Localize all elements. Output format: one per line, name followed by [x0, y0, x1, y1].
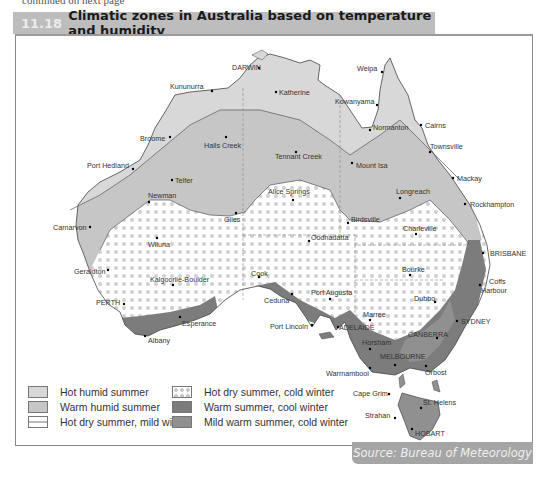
label-townsville: Townsville — [430, 142, 463, 151]
label-sydney: SYDNEY — [461, 317, 491, 326]
label-kalgoorlie: Kalgoorlie-Boulder — [150, 275, 210, 284]
legend-item-warm-humid: Warm humid summer — [28, 401, 160, 413]
label-esperance: Esperance — [182, 319, 216, 328]
label-katherine: Katherine — [279, 88, 310, 97]
label-mackay: Mackay — [457, 174, 482, 183]
label-ceduna: Ceduna — [264, 296, 289, 305]
label-birdsville: Birdsville — [351, 215, 380, 224]
label-halls-creek: Halls Creek — [204, 141, 242, 150]
label-port-hedland: Port Hedland — [87, 161, 129, 170]
swatch-hot-dry-cold — [172, 386, 192, 398]
label-charleville: Charleville — [403, 224, 437, 233]
swatch-hot-dry-mild — [28, 416, 48, 428]
label-hobart: HOBART — [415, 429, 445, 438]
label-telfer: Telfer — [175, 176, 193, 185]
label-weipa: Weipa — [357, 64, 377, 73]
label-orbost: Orbost — [425, 368, 447, 377]
swatch-warm-humid — [28, 401, 48, 413]
label-brisbane: BRISBANE — [490, 249, 527, 258]
label-cairns: Cairns — [425, 121, 446, 130]
label-cape-grim: Cape Grim — [353, 389, 388, 398]
label-newman: Newman — [148, 191, 176, 200]
label-bourke: Bourke — [402, 265, 425, 274]
label-alice-springs: Alice Springs — [268, 187, 310, 196]
label-st-helens: St. Helens — [423, 398, 457, 407]
swatch-mild-cold — [172, 416, 192, 428]
label-port-lincoln: Port Lincoln — [270, 322, 308, 331]
label-horsham: Horsham — [362, 338, 391, 347]
label-cook: Cook — [251, 269, 268, 278]
label-strahan: Strahan — [365, 411, 390, 420]
label-dubbo: Dubbo — [414, 294, 435, 303]
legend-item-hot-humid: Hot humid summer — [28, 386, 149, 398]
label-darwin: DARWIN — [232, 63, 261, 72]
legend-item-hot-dry-mild: Hot dry summer, mild winter — [28, 416, 190, 428]
label-melbourne: MELBOURNE — [380, 352, 426, 361]
label-albany: Albany — [148, 336, 170, 345]
label-warrnambool: Warrnambool — [326, 369, 369, 378]
label-mount-isa: Mount Isa — [356, 161, 388, 170]
label-longreach: Longreach — [396, 187, 430, 196]
label-broome: Broome — [140, 134, 165, 143]
label-wiluna: Wiluna — [148, 240, 170, 249]
source-badge: Source: Bureau of Meteorology — [352, 442, 533, 464]
label-port-augusta: Port Augusta — [311, 288, 352, 297]
label-kununurra: Kununurra — [170, 82, 204, 91]
label-geraldton: Geraldton — [74, 267, 106, 276]
label-harbour: Harbour — [481, 286, 508, 295]
legend-item-mild-cold: Mild warm summer, cold winter — [172, 416, 348, 428]
label-adelaide: ADELAIDE — [339, 323, 375, 332]
label-rockhampton: Rockhampton — [470, 200, 514, 209]
legend-item-warm-cool: Warm summer, cool winter — [172, 401, 328, 413]
label-normanton: Normanton — [373, 123, 409, 132]
label-perth: PERTH — [96, 298, 120, 307]
label-tennant-creek: Tennant Creek — [275, 152, 322, 161]
label-canberra: CANBERRA — [408, 330, 448, 339]
swatch-hot-humid — [28, 386, 48, 398]
label-coffs: Coffs — [489, 277, 506, 286]
label-oodnadatta: Oodnadatta — [311, 233, 349, 242]
label-carnarvon: Carnarvon — [53, 223, 87, 232]
label-kowanyama: Kowanyama — [335, 97, 375, 106]
label-marree: Marree — [363, 310, 386, 319]
swatch-warm-cool — [172, 401, 192, 413]
legend-item-hot-dry-cold: Hot dry summer, cold winter — [172, 386, 334, 398]
label-giles: Giles — [224, 215, 241, 224]
